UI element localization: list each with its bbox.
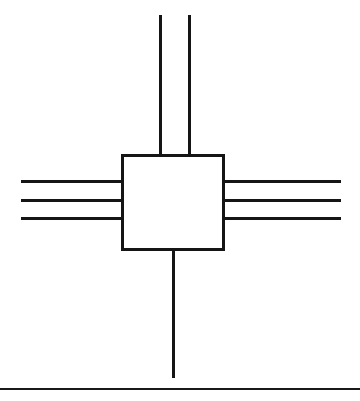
figure-root <box>0 0 360 401</box>
schematic-diagram-canvas <box>0 0 360 401</box>
central-block <box>123 156 224 250</box>
